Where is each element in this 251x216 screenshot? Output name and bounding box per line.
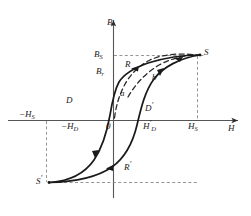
point-s-dot [199,54,202,57]
point-d-label: D [66,96,73,105]
hd-pos-label: H′D [143,122,156,131]
initial-magnetization-curve-b [128,55,199,97]
point-s-prime-dot [48,181,51,184]
point-s-label: S [204,48,209,57]
point-r-label: R [125,60,131,69]
point-d-prime-label: D′ [145,104,153,113]
origin-label: 0 [106,122,111,131]
br-label: Br [96,67,104,76]
hd-neg-label: −HD [61,122,78,131]
hs-pos-label: HS [188,122,198,131]
x-axis-label: H [228,124,235,133]
y-axis-label: B [107,18,113,27]
curve-b-label: b [152,73,157,82]
point-r-prime-label: R′ [124,163,131,172]
hysteresis-loop-figure: B H 0 BS Br S S′ R R′ D D′ −HS −HD H′D H… [0,0,251,216]
point-s-prime-label: S′ [36,177,42,186]
bs-label: BS [94,50,103,59]
curve-a-label: a [120,89,125,98]
hs-neg-label: −HS [19,110,35,119]
